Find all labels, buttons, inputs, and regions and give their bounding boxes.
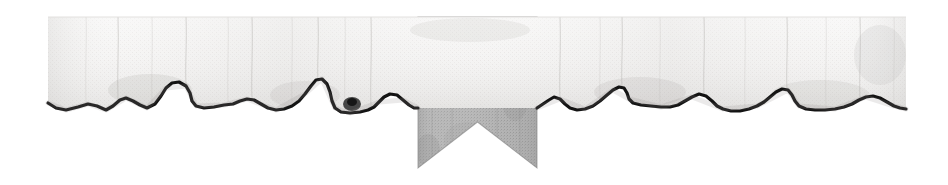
- banner-ornament-scene: Decorative chapter-header ornament: a ho…: [0, 0, 948, 185]
- torn-paper-banner-artwork: [0, 0, 948, 185]
